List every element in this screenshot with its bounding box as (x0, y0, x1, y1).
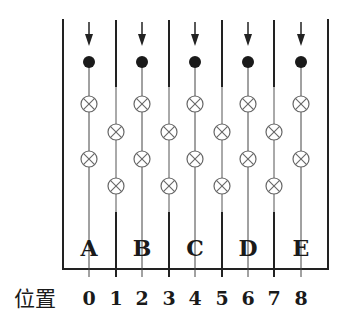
compartment-label-c: C (186, 235, 204, 261)
cross-circle-icon (266, 124, 282, 140)
down-arrow-icon (85, 22, 93, 46)
down-arrow-icon (138, 22, 146, 46)
down-arrow-icon (191, 22, 199, 46)
cross-circle-icon (266, 178, 282, 194)
cross-circle-icon (108, 178, 124, 194)
position-number: 8 (294, 287, 307, 309)
cross-circle-icon (108, 124, 124, 140)
cross-circle-icon (214, 178, 230, 194)
tube-diagram: A B C D E 位置 0 1 2 3 4 5 6 7 8 (0, 0, 349, 335)
cross-circle-icon (240, 151, 256, 167)
cross-circle-icon (187, 151, 203, 167)
down-arrows (85, 22, 305, 46)
position-number: 1 (109, 287, 122, 309)
filled-dot-icon (242, 56, 254, 68)
cross-circle-icon (81, 96, 97, 112)
position-number: 3 (162, 287, 175, 309)
position-number: 2 (135, 287, 148, 309)
cross-circle-icon (81, 151, 97, 167)
position-number: 4 (188, 287, 201, 309)
down-arrow-icon (297, 22, 305, 46)
compartment-label-b: B (133, 235, 152, 261)
filled-dot-icon (295, 56, 307, 68)
position-number: 6 (241, 287, 254, 309)
cross-circle-icon (161, 124, 177, 140)
filled-dot-icon (83, 56, 95, 68)
cross-circle-icon (187, 96, 203, 112)
position-number: 7 (267, 287, 280, 309)
cross-circle-icon (240, 96, 256, 112)
cross-circle-icon (214, 124, 230, 140)
position-numbers: 0 1 2 3 4 5 6 7 8 (82, 287, 307, 309)
position-number: 0 (82, 287, 95, 309)
cross-circle-icon (293, 151, 309, 167)
cross-circle-icon (134, 96, 150, 112)
position-number: 5 (215, 287, 228, 309)
cross-circle-icon (293, 96, 309, 112)
cross-circle-icon (134, 151, 150, 167)
compartment-label-d: D (238, 235, 257, 261)
compartment-label-e: E (293, 235, 310, 261)
filled-dot-icon (189, 56, 201, 68)
compartment-label-a: A (79, 235, 98, 261)
filled-dot-icon (136, 56, 148, 68)
position-label: 位置 (14, 287, 56, 311)
cross-circle-icon (161, 178, 177, 194)
down-arrow-icon (244, 22, 252, 46)
